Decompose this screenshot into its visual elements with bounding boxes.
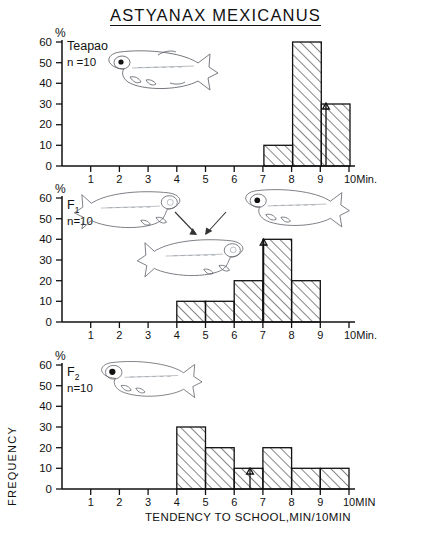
x-tick-label: 7 — [260, 496, 266, 508]
y-tick-label: 40 — [39, 77, 52, 89]
x-tick-label: 6 — [231, 173, 237, 185]
bar — [263, 239, 292, 322]
y-tick-label: 10 — [39, 462, 52, 474]
x-tick-label: 4 — [174, 329, 180, 341]
y-tick-label: 50 — [39, 213, 52, 225]
bar — [292, 281, 321, 322]
x-tick-label: 3 — [145, 496, 151, 508]
x-tick-label: 9 — [317, 496, 323, 508]
y-tick-label: 40 — [39, 400, 52, 412]
x-tick-label: 3 — [145, 173, 151, 185]
figure-svg: 0 10 20 30 40 50 60 % — [0, 0, 431, 541]
panel-3-x-unit: 10MIN — [343, 496, 375, 508]
x-tick-label: 8 — [289, 173, 295, 185]
x-tick-label: 5 — [202, 329, 208, 341]
bar — [320, 468, 349, 489]
y-tick-label: 50 — [39, 57, 52, 69]
panel-3-y-ticks — [56, 365, 62, 489]
x-tick-label: 5 — [202, 496, 208, 508]
three-fish-cross-icon — [74, 190, 349, 277]
x-tick-label: 1 — [88, 329, 94, 341]
y-tick-label: 20 — [39, 442, 52, 454]
bar — [263, 448, 292, 489]
y-tick-label: 0 — [46, 160, 52, 172]
x-tick-label: 9 — [317, 329, 323, 341]
x-tick-label: 8 — [289, 496, 295, 508]
x-tick-label: 2 — [116, 329, 122, 341]
panel-3-x-ticklabels: 1 2 3 4 5 6 7 8 9 — [88, 496, 324, 508]
bar — [177, 301, 206, 322]
bar — [177, 427, 206, 489]
x-tick-label: 2 — [116, 496, 122, 508]
panel-3-label: F2 — [67, 365, 80, 382]
bar — [293, 42, 322, 166]
x-tick-label: 6 — [231, 496, 237, 508]
bar — [234, 281, 263, 322]
panel-1-y-ticklabels: 0 10 20 30 40 50 60 — [39, 36, 52, 172]
y-tick-label: 10 — [39, 139, 52, 151]
bar — [206, 301, 235, 322]
single-eyed-fish-icon — [102, 362, 202, 398]
x-tick-label: 3 — [145, 329, 151, 341]
panel-1-x-ticks — [91, 166, 349, 172]
panel-2-x-ticks — [91, 322, 349, 328]
y-tick-label: 50 — [39, 380, 52, 392]
x-axis-label: TENDENCY TO SCHOOL,MIN/10MIN — [145, 511, 351, 523]
cross-arrow-left-icon — [175, 212, 197, 235]
panel-1-x-ticklabels: 1 2 3 4 5 6 7 8 9 — [88, 173, 324, 185]
y-axis-label: FREQUENCY — [6, 426, 18, 506]
bar — [292, 468, 321, 489]
y-tick-label: 10 — [39, 295, 52, 307]
y-tick-label: 30 — [39, 421, 52, 433]
panel-2-x-unit: 10Min. — [344, 329, 377, 341]
y-tick-label: 20 — [39, 118, 52, 130]
x-tick-label: 1 — [88, 496, 94, 508]
x-tick-label: 7 — [260, 173, 266, 185]
y-tick-label: 30 — [39, 98, 52, 110]
x-tick-label: 4 — [174, 496, 180, 508]
panel-2-n: n=10 — [67, 215, 93, 227]
panel-3-y-unit: % — [55, 349, 66, 363]
y-tick-label: 0 — [46, 316, 52, 328]
panel-1-x-unit: 10Min. — [344, 173, 377, 185]
x-tick-label: 7 — [260, 329, 266, 341]
cross-arrow-right-icon — [205, 212, 226, 235]
panel-2-y-ticks — [56, 198, 62, 322]
panel-3-n: n=10 — [67, 382, 93, 394]
x-tick-label: 9 — [317, 173, 323, 185]
x-tick-label: 2 — [116, 173, 122, 185]
panel-2-bars — [177, 239, 321, 322]
panel-3-bars — [177, 427, 349, 489]
y-tick-label: 30 — [39, 254, 52, 266]
panel-1-bars — [264, 42, 350, 166]
panel-1-y-unit: % — [55, 26, 66, 40]
x-tick-label: 8 — [289, 329, 295, 341]
x-tick-label: 5 — [202, 173, 208, 185]
panel-2-y-ticklabels: 0 10 20 30 40 50 60 — [39, 192, 52, 328]
y-tick-label: 40 — [39, 233, 52, 245]
single-eyed-fish-icon — [109, 51, 218, 90]
panel-2-y-unit: % — [55, 182, 66, 196]
panel-3-y-ticklabels: 0 10 20 30 40 50 60 — [39, 359, 52, 495]
y-tick-label: 60 — [39, 36, 52, 48]
y-tick-label: 60 — [39, 192, 52, 204]
panel-2: 0 10 20 30 40 50 60 % — [39, 182, 377, 341]
panel-3-x-ticks — [91, 489, 349, 495]
panel-3: 0 10 20 30 40 50 60 % — [39, 349, 375, 508]
panel-1-label: Teapao — [67, 39, 108, 53]
panel-1-n: n =10 — [67, 56, 96, 68]
x-tick-label: 6 — [231, 329, 237, 341]
panel-2-x-ticklabels: 1 2 3 4 5 6 7 8 9 — [88, 329, 324, 341]
panel-2-label: F1 — [67, 198, 80, 215]
y-tick-label: 0 — [46, 483, 52, 495]
bar — [264, 145, 293, 166]
bar — [206, 448, 235, 489]
figure-root: ASTYANAX MEXICANUS — [0, 0, 431, 541]
y-tick-label: 60 — [39, 359, 52, 371]
x-tick-label: 4 — [174, 173, 180, 185]
y-tick-label: 20 — [39, 275, 52, 287]
panel-1-y-ticks — [56, 42, 62, 166]
panel-1: 0 10 20 30 40 50 60 % — [39, 26, 377, 185]
x-tick-label: 1 — [88, 173, 94, 185]
